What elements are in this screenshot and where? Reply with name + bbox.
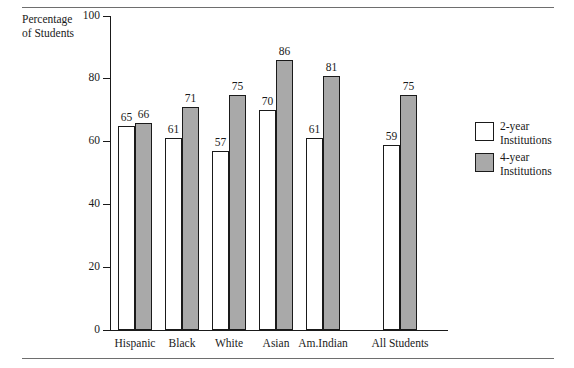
- bar-all-students-4-year: [400, 95, 417, 331]
- y-axis-tick-label-20: 20: [70, 260, 100, 272]
- y-axis-tick-label-60: 60: [70, 134, 100, 146]
- bar-value-label: 86: [272, 45, 298, 57]
- bar-value-label: 71: [178, 92, 204, 104]
- y-axis-tick-100: [103, 16, 111, 17]
- y-axis-tick-20: [103, 267, 111, 268]
- bar-hispanic-4-year: [135, 123, 152, 330]
- white-square-swatch: [475, 122, 494, 141]
- bar-hispanic-2-year: [118, 126, 135, 330]
- y-axis-tick-label-0: 0: [70, 323, 100, 335]
- bar-value-label: 66: [131, 108, 157, 120]
- figure-top-rule: [22, 7, 554, 8]
- bar-all-students-2-year: [383, 145, 400, 330]
- x-axis-label-black: Black: [169, 337, 196, 349]
- bar-white-2-year: [212, 151, 229, 330]
- clipped-caption-above: [22, 0, 554, 3]
- y-axis-tick-40: [103, 204, 111, 205]
- bar-white-4-year: [229, 95, 246, 331]
- bar-black-2-year: [165, 138, 182, 330]
- bar-am-indian-2-year: [306, 138, 323, 330]
- bar-value-label: 81: [319, 61, 345, 73]
- x-axis-label-all-students: All Students: [371, 337, 428, 349]
- bar-asian-4-year: [276, 60, 293, 330]
- chart-figure: Percentage of Students 020406080100 6566…: [0, 0, 574, 368]
- gray-square-swatch: [475, 153, 494, 172]
- bar-black-4-year: [182, 107, 199, 330]
- y-axis-line: [110, 16, 111, 330]
- y-axis-tick-label-40: 40: [70, 197, 100, 209]
- bar-value-label: 75: [225, 80, 251, 92]
- y-axis-tick-label-100: 100: [70, 9, 100, 21]
- x-axis-label-am-indian: Am.Indian: [298, 337, 348, 349]
- y-axis-tick-60: [103, 141, 111, 142]
- legend-item-2-year-label: 2-year Institutions: [500, 120, 552, 147]
- bar-value-label: 75: [396, 80, 422, 92]
- bar-asian-2-year: [259, 110, 276, 330]
- y-axis-tick-label-80: 80: [70, 71, 100, 83]
- y-axis-title-line2: of Students: [22, 27, 102, 41]
- y-axis-tick-80: [103, 78, 111, 79]
- x-axis-label-asian: Asian: [263, 337, 290, 349]
- figure-bottom-rule: [22, 358, 554, 359]
- x-axis-label-white: White: [215, 337, 243, 349]
- legend-item-4-year-label: 4-year Institutions: [500, 151, 552, 178]
- y-axis-tick-0: [103, 330, 111, 331]
- x-axis-label-hispanic: Hispanic: [115, 337, 156, 349]
- bar-am-indian-4-year: [323, 76, 340, 330]
- x-axis-line: [110, 330, 448, 331]
